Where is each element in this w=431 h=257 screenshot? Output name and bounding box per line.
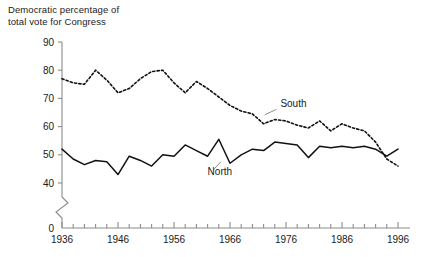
annotation-leader bbox=[265, 109, 277, 114]
chart-root: Democratic percentage of total vote for … bbox=[0, 0, 431, 257]
y-tick-label: 60 bbox=[43, 121, 55, 132]
x-tick-label: 1956 bbox=[163, 234, 186, 245]
x-axis: 1936194619561966197619861996 bbox=[51, 222, 410, 245]
x-tick-label: 1936 bbox=[51, 234, 74, 245]
x-tick-label: 1946 bbox=[107, 234, 130, 245]
y-tick-label: 50 bbox=[43, 149, 55, 160]
series-layer bbox=[62, 70, 398, 174]
y-tick-label: 40 bbox=[43, 178, 55, 189]
series-label-north: North bbox=[208, 166, 232, 177]
x-tick-label: 1976 bbox=[275, 234, 298, 245]
chart-svg: 9080706050400 19361946195619661976198619… bbox=[0, 0, 431, 257]
y-axis: 9080706050400 bbox=[43, 37, 68, 234]
annotation-layer: SouthNorth bbox=[208, 98, 307, 177]
x-tick-label: 1966 bbox=[219, 234, 242, 245]
x-tick-label: 1996 bbox=[387, 234, 410, 245]
y-tick-label: 90 bbox=[43, 37, 55, 48]
series-line-south bbox=[62, 70, 398, 166]
x-tick-label: 1986 bbox=[331, 234, 354, 245]
y-tick-label: 70 bbox=[43, 93, 55, 104]
series-label-south: South bbox=[280, 98, 306, 109]
y-tick-label: 80 bbox=[43, 65, 55, 76]
y-tick-label: 0 bbox=[48, 223, 54, 234]
